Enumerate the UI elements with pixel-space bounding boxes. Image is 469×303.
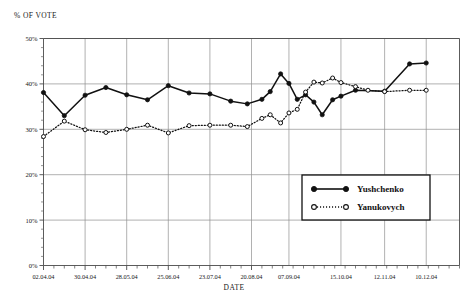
data-point (145, 98, 149, 102)
legend-swatch-marker (344, 205, 349, 210)
data-point (166, 131, 170, 135)
data-point (245, 125, 249, 129)
data-point (268, 90, 272, 94)
data-point (331, 76, 335, 80)
x-tick-label: 25.06.04 (157, 273, 180, 280)
axis-tick-labels: 0%10%20%30%40%50%02.04.0430.04.0428.05.0… (25, 35, 438, 280)
data-point (208, 92, 212, 96)
data-point (408, 88, 412, 92)
x-tick-label: 28.05.04 (116, 273, 139, 280)
x-tick-label: 07.09.04 (278, 273, 301, 280)
data-point (407, 62, 411, 66)
data-point (424, 61, 428, 65)
chart-legend: YushchenkoYanukovych (302, 175, 430, 220)
data-point (104, 85, 108, 89)
data-point (339, 81, 343, 85)
x-tick-label: 15.10.04 (330, 273, 353, 280)
x-tick-label: 12.11.04 (374, 273, 397, 280)
data-series (41, 61, 428, 139)
data-point (312, 100, 316, 104)
data-point (366, 88, 370, 92)
data-point (83, 128, 87, 132)
legend-box (302, 175, 430, 220)
legend-label-yanukovych: Yanukovych (357, 202, 405, 212)
y-tick-label: 40% (25, 80, 38, 87)
data-point (146, 123, 150, 127)
y-tick-label: 0% (29, 262, 38, 269)
series-line (44, 78, 427, 137)
x-tick-label: 30.04.04 (74, 273, 97, 280)
y-tick-label: 20% (25, 171, 38, 178)
legend-label-yushchenko: Yushchenko (357, 184, 404, 194)
data-point (125, 127, 129, 131)
chart-canvas: 0%10%20%30%40%50%02.04.0430.04.0428.05.0… (0, 0, 469, 303)
data-point (279, 72, 283, 76)
axis-ticks (40, 39, 460, 271)
vote-share-line-chart: 0%10%20%30%40%50%02.04.0430.04.0428.05.0… (0, 0, 469, 303)
x-axis-title: DATE (224, 283, 245, 292)
data-point (320, 113, 324, 117)
data-point (208, 123, 212, 127)
x-tick-label: 10.12.04 (415, 273, 438, 280)
data-point (229, 123, 233, 127)
data-point (42, 135, 46, 139)
legend-swatch-marker (312, 205, 317, 210)
data-point (279, 121, 283, 125)
y-tick-label: 50% (25, 35, 38, 42)
data-point (312, 80, 316, 84)
data-point (295, 107, 299, 111)
x-tick-label: 23.07.04 (199, 273, 222, 280)
data-point (268, 113, 272, 117)
legend-swatch-marker (343, 186, 348, 191)
data-point (424, 88, 428, 92)
data-point (304, 90, 308, 94)
data-point (287, 81, 291, 85)
data-point (62, 119, 66, 123)
data-point (104, 130, 108, 134)
data-point (295, 97, 299, 101)
y-tick-label: 10% (25, 217, 38, 224)
y-axis-title: % OF VOTE (14, 11, 57, 20)
data-point (187, 91, 191, 95)
data-point (166, 84, 170, 88)
data-point (331, 98, 335, 102)
data-point (187, 124, 191, 128)
legend-swatch-marker (311, 186, 316, 191)
data-point (354, 85, 358, 89)
data-point (260, 116, 264, 120)
data-point (260, 97, 264, 101)
data-point (125, 93, 129, 97)
data-point (245, 102, 249, 106)
data-point (383, 90, 387, 94)
x-tick-label: 20.08.04 (240, 273, 263, 280)
data-point (339, 94, 343, 98)
gridlines (44, 39, 460, 266)
data-point (320, 81, 324, 85)
x-tick-label: 02.04.04 (32, 273, 55, 280)
y-tick-label: 30% (25, 126, 38, 133)
data-point (83, 93, 87, 97)
data-point (287, 111, 291, 115)
data-point (62, 114, 66, 118)
data-point (41, 90, 45, 94)
data-point (229, 99, 233, 103)
